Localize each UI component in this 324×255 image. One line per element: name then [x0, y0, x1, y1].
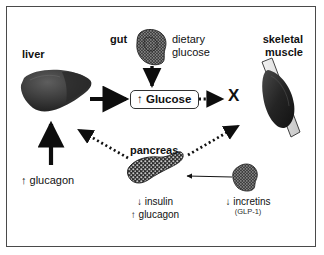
glucose-node: ↑ Glucose: [130, 90, 199, 109]
incretins-sublabel: (GLP-1): [208, 208, 288, 216]
liver-label: liver: [22, 48, 45, 60]
dietary-glucose-label-line2: glucose: [172, 46, 210, 58]
gut-label: gut: [110, 33, 127, 45]
incretins-annotation: ↓ incretins: [208, 196, 288, 207]
skeletal-muscle-label-line1: skeletal: [206, 33, 303, 45]
pancreas-output-insulin: ↓ insulin: [116, 196, 194, 207]
pancreas-output-glucagon: ↑ glucagon: [116, 209, 194, 220]
skeletal-muscle-label-line2: muscle: [206, 46, 303, 58]
glucagon-liver-annotation: ↑ glucagon: [21, 174, 74, 186]
dietary-glucose-label-line1: dietary: [172, 33, 205, 45]
block-marker-x: X: [228, 86, 239, 105]
pancreas-label: pancreas: [130, 144, 178, 156]
diagram-canvas: liver gut dietary glucose ↑ Glucose X sk…: [0, 0, 324, 255]
